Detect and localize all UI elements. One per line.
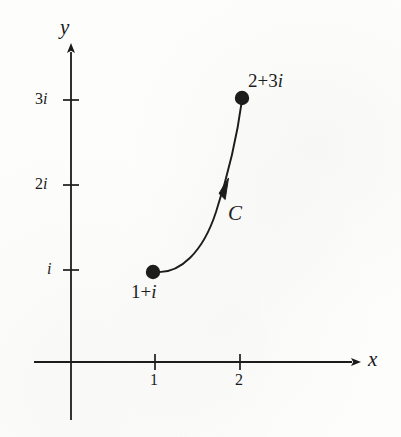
point-marker-end: [235, 91, 249, 105]
imaginary-unit-glyph: i: [151, 281, 156, 302]
end-point-label: 2+3i: [248, 71, 283, 90]
y-tick-label-3i: 3i: [35, 91, 47, 107]
y-tick-label-2i: 2i: [35, 176, 47, 192]
curve-path: [156, 100, 242, 272]
figure-canvas: [0, 0, 401, 437]
x-tick-label-1: 1: [150, 372, 158, 388]
start-point-label: 1+i: [131, 282, 157, 301]
contour-curve-c: [156, 100, 242, 272]
y-axis: [63, 52, 79, 420]
x-axis-label: x: [368, 349, 377, 370]
point-marker-start: [146, 265, 160, 279]
x-tick-label-2: 2: [235, 372, 243, 388]
complex-plane-contour-figure: y x 3i 2i i 1 2 2+3i 1+i C: [0, 0, 401, 437]
imaginary-unit-glyph: i: [43, 90, 47, 107]
curve-label-c: C: [228, 203, 242, 224]
x-axis: [34, 354, 352, 370]
y-tick-label-i: i: [47, 261, 51, 277]
y-axis-label: y: [60, 17, 69, 38]
imaginary-unit-glyph: i: [278, 70, 283, 91]
imaginary-unit-glyph: i: [43, 175, 47, 192]
